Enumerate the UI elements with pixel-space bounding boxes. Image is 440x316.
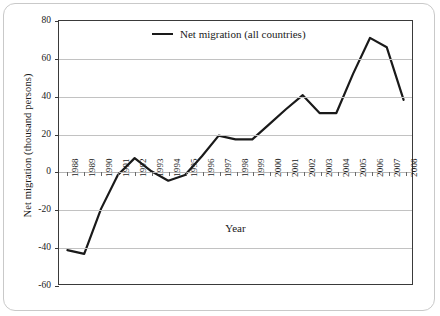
legend-label: Net migration (all countries) [180, 28, 306, 40]
y-axis-tick-mark [55, 21, 59, 22]
x-axis-tick-mark [237, 172, 238, 176]
x-axis-tick-label: 1994 [172, 159, 182, 178]
plot-area [58, 20, 413, 285]
x-axis-tick-label: 2000 [273, 159, 283, 178]
chart-canvas: Net migration (thousand persons) 8060402… [0, 0, 440, 316]
y-axis-tick-label: -20 [22, 204, 51, 214]
y-axis-tick-labels: 806040200-20-40-60 [22, 0, 51, 316]
x-axis-tick-label: 1995 [189, 159, 199, 178]
x-axis-tick-label: 1998 [240, 159, 250, 178]
x-axis-tick-label: 1989 [87, 159, 97, 178]
y-axis-tick-mark [55, 248, 59, 249]
x-axis-tick-mark [203, 172, 204, 176]
y-axis-tick-label: 80 [22, 15, 51, 25]
y-axis-tick-mark [55, 135, 59, 136]
chart-legend: Net migration (all countries) [152, 28, 306, 40]
x-axis-tick-mark [321, 172, 322, 176]
x-axis-tick-label: 1992 [138, 159, 148, 178]
chart-figure: Net migration (thousand persons) 8060402… [0, 0, 440, 316]
x-axis-tick-mark [389, 172, 390, 176]
y-axis-tick-mark [55, 97, 59, 98]
x-axis-tick-label: 1990 [104, 159, 114, 178]
x-axis-tick-label: 1993 [155, 159, 165, 178]
y-axis-tick-label: 60 [22, 53, 51, 63]
y-axis-tick-label: 20 [22, 129, 51, 139]
x-axis-tick-mark [152, 172, 153, 176]
gridline [59, 59, 412, 60]
legend-line-swatch-icon [152, 33, 173, 36]
x-axis-tick-mark [135, 172, 136, 176]
x-axis-tick-label: 1997 [223, 159, 233, 178]
x-axis-tick-mark [270, 172, 271, 176]
x-axis-tick-mark [220, 172, 221, 176]
x-axis-tick-label: 2006 [375, 159, 385, 178]
x-axis-tick-label: 1991 [121, 159, 131, 178]
x-axis-tick-mark [406, 172, 407, 176]
gridline [59, 97, 412, 98]
x-axis-tick-mark [101, 172, 102, 176]
x-axis-tick-mark [84, 172, 85, 176]
x-axis-tick-mark [372, 172, 373, 176]
x-axis-tick-mark [304, 172, 305, 176]
y-axis-tick-label: -60 [22, 280, 51, 290]
x-axis-tick-mark [186, 172, 187, 176]
x-axis-tick-label: 1999 [256, 159, 266, 178]
y-axis-tick-mark [55, 286, 59, 287]
x-axis-tick-label: 2002 [307, 159, 317, 178]
gridline [59, 248, 412, 249]
x-axis-tick-label: 2001 [290, 159, 300, 178]
x-axis-tick-mark [287, 172, 288, 176]
x-axis-tick-label: 2008 [409, 159, 419, 178]
y-axis-tick-label: 40 [22, 91, 51, 101]
x-axis-tick-mark [118, 172, 119, 176]
series-line-net-migration [59, 21, 412, 284]
x-axis-tick-label: 2003 [324, 159, 334, 178]
x-axis-tick-mark [253, 172, 254, 176]
gridline [59, 210, 412, 211]
x-axis-tick-mark [169, 172, 170, 176]
x-axis-tick-mark [67, 172, 68, 176]
y-axis-tick-label: 0 [22, 166, 51, 176]
x-axis-title: Year [58, 222, 413, 234]
y-axis-tick-mark [55, 59, 59, 60]
x-axis-tick-label: 2005 [358, 159, 368, 178]
x-axis-tick-mark [338, 172, 339, 176]
gridline [59, 135, 412, 136]
y-axis-tick-mark [55, 210, 59, 211]
x-axis-tick-mark [355, 172, 356, 176]
x-axis-tick-label: 2007 [392, 159, 402, 178]
y-axis-tick-label: -40 [22, 242, 51, 252]
x-axis-tick-label: 2004 [341, 159, 351, 178]
x-axis-tick-label: 1988 [70, 159, 80, 178]
x-axis-tick-label: 1996 [206, 159, 216, 178]
